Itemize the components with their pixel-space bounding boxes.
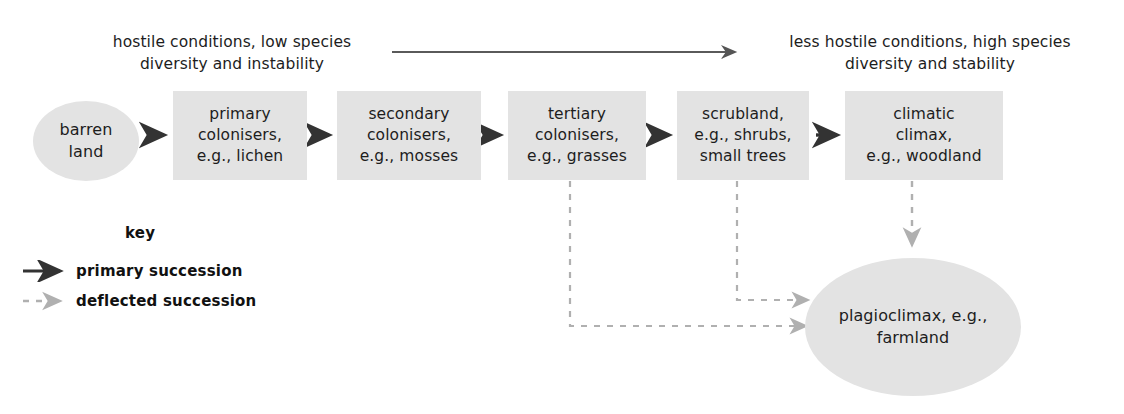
node-scrubland-line-1: scrubland, [694, 104, 791, 125]
node-climatic-climax-line-3: e.g., woodland [866, 146, 981, 167]
caption-less-hostile-line-2: diversity and stability [752, 53, 1108, 75]
node-secondary-colonisers: secondary colonisers, e.g., mosses [337, 91, 481, 180]
node-plagioclimax: plagioclimax, e.g., farmland [805, 258, 1021, 396]
key-legend: key primary succession [20, 224, 257, 316]
node-primary-colonisers-line-2: colonisers, [197, 125, 284, 146]
node-scrubland-line-3: small trees [694, 146, 791, 167]
key-label-deflected-succession: deflected succession [76, 292, 257, 310]
caption-less-hostile-conditions: less hostile conditions, high species di… [752, 31, 1108, 75]
node-scrubland: scrubland, e.g., shrubs, small trees [677, 91, 809, 180]
caption-hostile-line-2: diversity and instability [62, 53, 402, 75]
caption-hostile-conditions: hostile conditions, low species diversit… [62, 31, 402, 75]
key-entry-primary-succession: primary succession [20, 256, 257, 286]
node-tertiary-colonisers: tertiary colonisers, e.g., grasses [508, 91, 646, 180]
node-secondary-colonisers-line-1: secondary [360, 104, 459, 125]
node-climatic-climax: climatic climax, e.g., woodland [845, 91, 1003, 180]
dashed-arrow-scrubland-to-plagioclimax [737, 181, 806, 300]
node-climatic-climax-line-1: climatic [866, 104, 981, 125]
node-tertiary-colonisers-line-1: tertiary [527, 104, 627, 125]
node-primary-colonisers-line-3: e.g., lichen [197, 146, 284, 167]
dashed-arrow-icon [20, 290, 74, 312]
node-secondary-colonisers-line-3: e.g., mosses [360, 146, 459, 167]
key-entry-deflected-succession: deflected succession [20, 286, 257, 316]
solid-arrow-icon [20, 260, 74, 282]
node-plagioclimax-line-1: plagioclimax, e.g., [839, 305, 988, 327]
dashed-arrow-tertiary-to-plagioclimax [570, 181, 804, 326]
key-label-primary-succession: primary succession [76, 262, 243, 280]
node-tertiary-colonisers-line-2: colonisers, [527, 125, 627, 146]
node-primary-colonisers-line-1: primary [197, 104, 284, 125]
node-barren-land-line-1: barren [59, 119, 112, 141]
node-barren-land-line-2: land [59, 141, 112, 163]
key-title: key [125, 224, 257, 242]
node-barren-land: barren land [33, 101, 139, 181]
node-primary-colonisers: primary colonisers, e.g., lichen [173, 91, 307, 180]
succession-diagram: hostile conditions, low species diversit… [0, 0, 1124, 414]
caption-hostile-line-1: hostile conditions, low species [62, 31, 402, 53]
node-secondary-colonisers-line-2: colonisers, [360, 125, 459, 146]
caption-less-hostile-line-1: less hostile conditions, high species [752, 31, 1108, 53]
node-scrubland-line-2: e.g., shrubs, [694, 125, 791, 146]
node-tertiary-colonisers-line-3: e.g., grasses [527, 146, 627, 167]
node-plagioclimax-line-2: farmland [839, 327, 988, 349]
node-climatic-climax-line-2: climax, [866, 125, 981, 146]
